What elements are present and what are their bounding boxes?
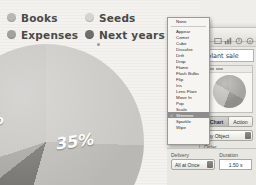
preview-toolbar xyxy=(205,66,252,73)
menu-item-label: Cube xyxy=(176,41,187,46)
menu-item-label: Wipe xyxy=(176,125,186,130)
menu-item-label: Shimmer xyxy=(176,113,194,118)
legend-item-expenses[interactable]: Expenses xyxy=(7,29,85,41)
menu-item-label: Drop xyxy=(176,59,186,64)
duration-value[interactable]: 1.50 s xyxy=(219,159,252,170)
menu-item-label: Comet xyxy=(176,35,189,40)
legend-item-books[interactable]: Books xyxy=(7,12,85,24)
delivery-value: All at Once xyxy=(175,162,199,168)
delivery-duration-bar: Delivery All at Once Duration 1.50 s xyxy=(167,148,256,185)
delivery-popup[interactable]: All at Once xyxy=(171,159,215,170)
menu-item-label: None xyxy=(176,19,187,24)
menu-separator xyxy=(171,26,206,27)
legend-item-next-years[interactable]: Next years xyxy=(85,29,163,41)
menu-item-none[interactable]: None xyxy=(168,18,209,24)
build-by-popup[interactable]: by Object xyxy=(204,130,253,141)
menu-item-label: Pop xyxy=(176,101,184,106)
legend-swatch-next-years xyxy=(85,30,94,39)
chart-title-value: plant sale xyxy=(207,52,239,60)
preview-pie-highlight xyxy=(213,75,246,108)
duration-group: Duration 1.50 s xyxy=(219,152,252,170)
menu-item-label: Flash Bulbs xyxy=(176,71,199,76)
legend-label-expenses: Expenses xyxy=(21,29,78,41)
legend-swatch-books xyxy=(7,13,16,22)
chevron-down-icon[interactable] xyxy=(207,161,213,168)
slide-icon[interactable] xyxy=(214,31,222,39)
legend-swatch-expenses xyxy=(7,30,16,39)
build-effect-menu[interactable]: NoneAppearCometCubeDissolveDriftDropFlam… xyxy=(167,17,210,145)
legend-swatch-seeds xyxy=(85,13,94,22)
build-by-value: by Object xyxy=(208,133,229,139)
menu-item-label: Iris xyxy=(176,83,182,88)
metrics-icon[interactable] xyxy=(235,31,243,39)
chart-anchor-handle[interactable] xyxy=(97,43,100,46)
chevron-down-icon[interactable] xyxy=(245,132,251,139)
legend-row: Expenses Next years xyxy=(7,26,167,43)
menu-item-label: Lens Flare xyxy=(176,89,197,94)
menu-item-label: Appear xyxy=(176,29,190,34)
menu-item-label: Drift xyxy=(176,53,184,58)
menu-item-wipe[interactable]: Wipe xyxy=(168,124,209,130)
app-window: Books Seeds Expenses Next years xyxy=(0,0,256,185)
inspector-tabs: Chart Action xyxy=(204,116,253,127)
duration-label: Duration xyxy=(219,152,252,158)
menu-item-label: Sparkle xyxy=(176,119,191,124)
pie-highlight xyxy=(0,44,144,185)
menu-item-label: Scale xyxy=(176,107,187,112)
legend-item-seeds[interactable]: Seeds xyxy=(85,12,163,24)
legend-label-books: Books xyxy=(21,12,58,24)
legend-label-next-years: Next years xyxy=(99,29,165,41)
menu-item-label: Flip xyxy=(176,77,183,82)
chart-title-field[interactable]: plant sale xyxy=(203,49,254,62)
chart-legend: Books Seeds Expenses Next years xyxy=(7,9,167,43)
legend-label-seeds: Seeds xyxy=(99,12,136,24)
chart-preview[interactable] xyxy=(204,65,253,113)
check-icon: ✓ xyxy=(170,113,173,118)
info-icon[interactable] xyxy=(246,31,254,39)
delivery-label: Delivery xyxy=(171,152,215,158)
tab-action[interactable]: Action xyxy=(228,117,252,126)
menu-item-label: Dissolve xyxy=(176,47,193,52)
delivery-group: Delivery All at Once xyxy=(171,152,215,170)
menu-item-label: Flame xyxy=(176,65,188,70)
build-delivery-row: by Object xyxy=(204,130,253,141)
pie-chart[interactable]: 3% 7% 35% xyxy=(0,44,144,185)
menu-item-label: Move In xyxy=(176,95,192,100)
chart-icon[interactable] xyxy=(224,31,232,39)
legend-row: Books Seeds xyxy=(7,9,167,26)
